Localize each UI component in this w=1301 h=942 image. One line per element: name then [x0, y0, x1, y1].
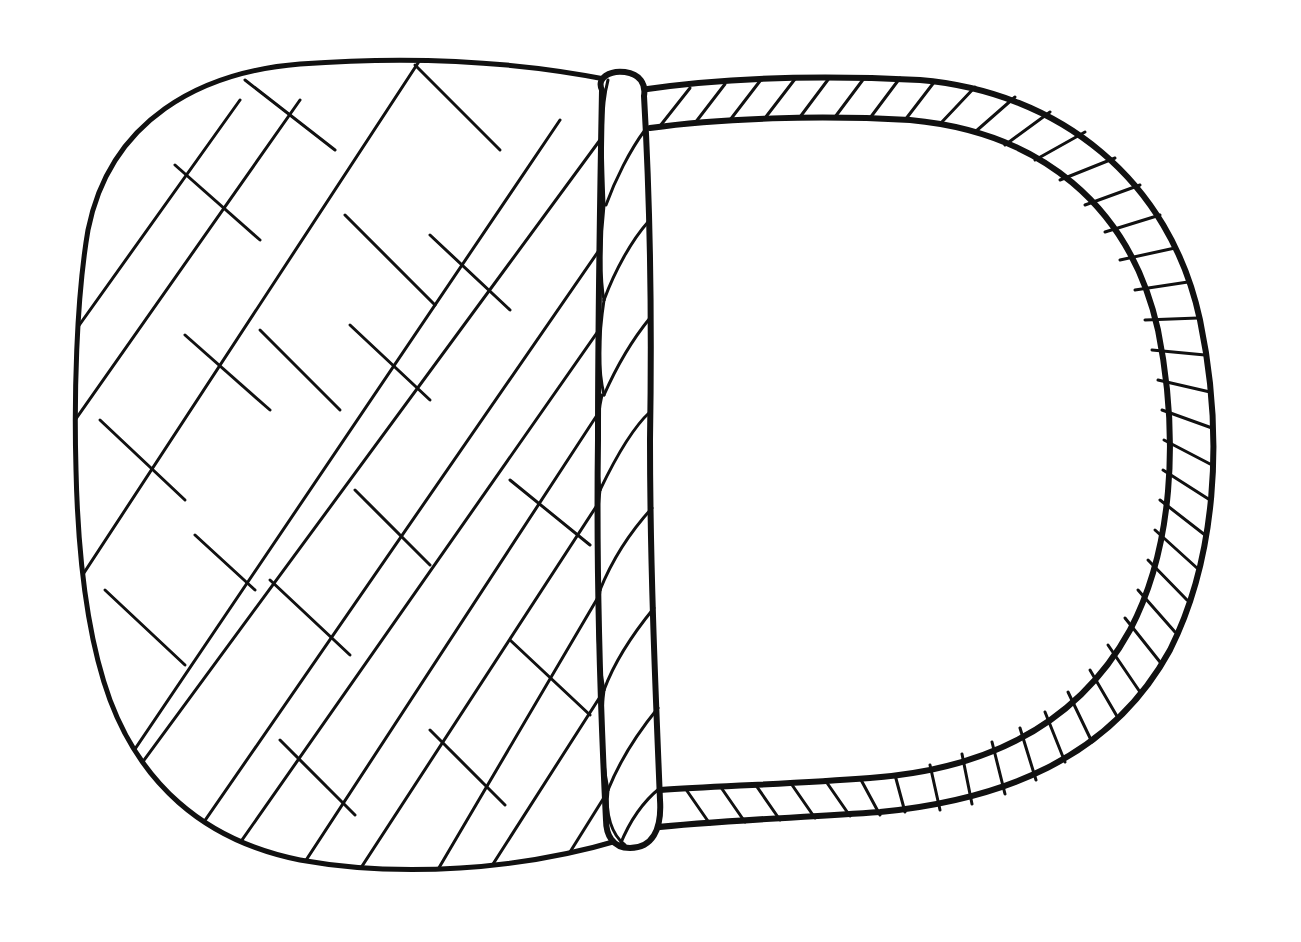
weave-pattern	[40, 60, 640, 900]
basket-drawing	[0, 0, 1301, 942]
rope-rim	[597, 72, 660, 848]
basket-body-outline	[75, 60, 620, 869]
rope-handle	[640, 77, 1213, 828]
